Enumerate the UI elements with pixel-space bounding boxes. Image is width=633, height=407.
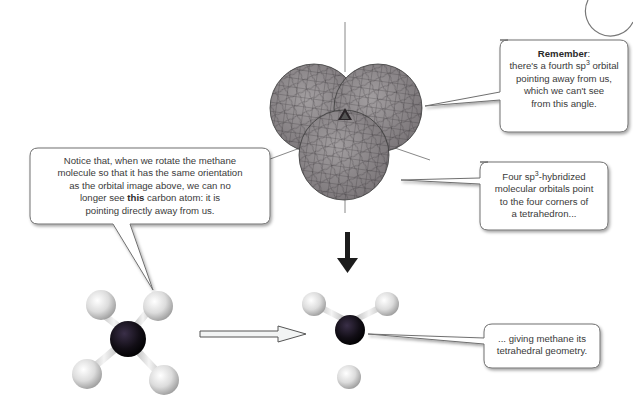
right-arrow-icon	[200, 326, 306, 342]
hydrogen-atom	[72, 359, 102, 389]
remember-title: Remember	[538, 48, 588, 59]
hydrogen-atom	[337, 365, 361, 389]
hydrogen-atom	[375, 292, 399, 316]
notice-callout: Notice that, when we rotate the methane …	[30, 155, 270, 217]
geometry-callout: ... giving methane its tetrahedral geome…	[484, 333, 600, 358]
corner-circle	[585, 0, 633, 36]
carbon-atom	[110, 321, 146, 357]
orbital-model	[262, 22, 430, 213]
down-arrow-icon	[337, 232, 358, 273]
hydrogen-atom	[149, 365, 179, 395]
methane-top-model	[302, 292, 399, 389]
hydrogen-atom	[143, 291, 173, 321]
remember-callout: Remember: there's a fourth sp3 orbital p…	[500, 48, 628, 110]
methane-side-model	[72, 290, 179, 395]
carbon-atom	[335, 315, 365, 345]
hydrogen-atom	[86, 290, 116, 320]
hydrogen-atom	[302, 292, 326, 316]
emphasis-this: this	[127, 192, 144, 203]
four-orbitals-callout: Four sp3-hybridized molecular orbitals p…	[480, 171, 608, 221]
